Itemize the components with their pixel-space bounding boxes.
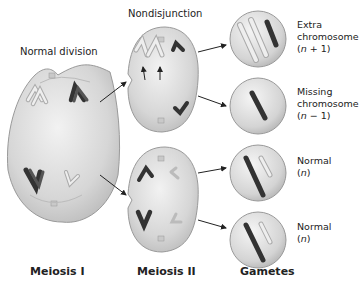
gamete-3-label: Normal (n)	[297, 155, 331, 179]
gamete-missing-chromosome	[230, 78, 286, 134]
gamete-4-label: Normal (n)	[297, 221, 331, 245]
meiosis-2-normal-cell	[128, 147, 198, 252]
meiosis-1-cell	[7, 65, 119, 223]
stage-label-meiosis-1: Meiosis I	[30, 266, 85, 278]
gamete-2-label: Missing chromosome (n − 1)	[297, 86, 359, 122]
gamete-normal-1	[230, 145, 286, 201]
gamete-1-label: Extra chromosome (n + 1)	[297, 19, 359, 55]
meiosis-2-nondisjunction-cell	[128, 27, 198, 132]
nondisjunction-label: Nondisjunction	[128, 8, 202, 20]
stage-label-gametes: Gametes	[240, 266, 295, 278]
arrow-to-gamete-1	[198, 45, 226, 52]
arrow-to-gamete-4	[198, 220, 226, 228]
stage-label-meiosis-2: Meiosis II	[137, 266, 196, 278]
gamete-extra-chromosome	[230, 11, 286, 67]
normal-division-label: Normal division	[20, 46, 98, 58]
gamete-normal-2	[230, 212, 286, 268]
arrow-to-gamete-2	[198, 96, 226, 106]
arrow-to-gamete-3	[198, 168, 226, 173]
